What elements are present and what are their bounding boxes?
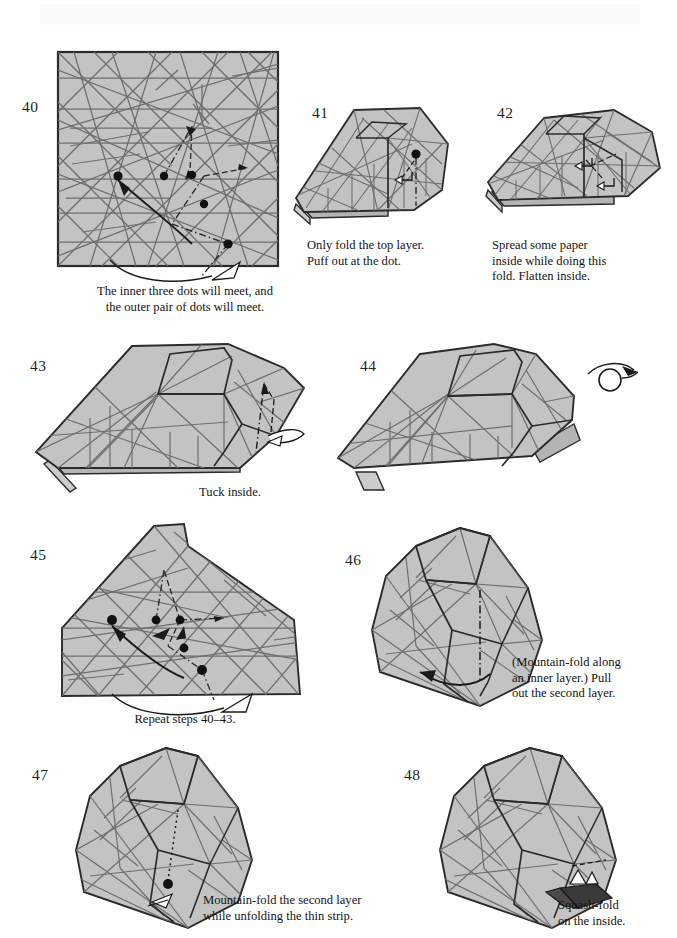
diagram-step-40 [52,46,284,278]
step-number-47: 47 [32,766,49,784]
caption-step-42: Spread some paper inside while doing thi… [492,238,670,285]
step-number-48: 48 [404,766,421,784]
caption-step-47: Mountain-fold the second layer while unf… [203,893,453,924]
origami-instruction-page: 40 [0,0,677,938]
diagram-step-45 [28,520,328,705]
caption-step-45: Repeat steps 40–43. [60,712,310,728]
turn-over-icon [582,358,646,400]
caption-step-46: (Mountain-fold along an inner layer.) Pu… [512,655,677,702]
step-number-40: 40 [22,98,39,116]
diagram-step-42 [474,104,674,234]
diagram-step-43 [28,340,318,500]
caption-step-48: Squash-fold on the inside. [558,898,677,929]
caption-step-41: Only fold the top layer. Puff out at the… [307,238,485,269]
caption-step-40: The inner three dots will meet, and the … [60,284,310,315]
caption-step-43: Tuck inside. [170,485,290,501]
scan-bleed-artifact [40,4,640,26]
caption-pointer-step-40 [108,258,258,286]
diagram-step-41 [292,104,472,234]
